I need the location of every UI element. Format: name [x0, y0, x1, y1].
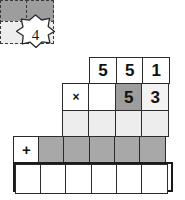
- digit-cell[interactable]: 3: [141, 83, 169, 111]
- digit-cell[interactable]: [114, 136, 141, 163]
- digit-cell[interactable]: [65, 164, 92, 194]
- star-badge-value: 4: [13, 13, 58, 57]
- partial-product-row-2: +: [13, 136, 173, 163]
- digit-cell[interactable]: [62, 110, 90, 137]
- total-row: [13, 162, 173, 192]
- digit-cell[interactable]: [15, 164, 42, 194]
- digit-cell[interactable]: [91, 164, 118, 194]
- multiplier-row: × 5 3: [62, 83, 173, 111]
- multiplicand-row: 5 5 1: [89, 57, 173, 84]
- digit-cell[interactable]: [141, 164, 168, 194]
- long-multiplication-worksheet: 4 5 5 1 × 5 3 +: [0, 0, 185, 200]
- digit-cell[interactable]: [38, 136, 65, 163]
- star-burst-icon: 4: [13, 13, 58, 57]
- digit-cell[interactable]: [88, 83, 116, 111]
- digit-cell[interactable]: [89, 136, 116, 163]
- partial-product-row-1: [62, 110, 173, 137]
- digit-cell[interactable]: 5: [116, 57, 144, 84]
- digit-cell[interactable]: 5: [115, 83, 143, 111]
- plus-operator-cell: +: [13, 136, 40, 163]
- multiply-operator-cell: ×: [62, 83, 90, 111]
- digit-cell[interactable]: [139, 136, 166, 163]
- digit-cell[interactable]: [40, 164, 67, 194]
- digit-cell[interactable]: [88, 110, 116, 137]
- digit-cell[interactable]: [141, 110, 169, 137]
- digit-cell[interactable]: 5: [89, 57, 117, 84]
- digit-cell[interactable]: [116, 164, 143, 194]
- digit-cell[interactable]: [115, 110, 143, 137]
- digit-cell[interactable]: 1: [142, 57, 170, 84]
- digit-cell[interactable]: [63, 136, 90, 163]
